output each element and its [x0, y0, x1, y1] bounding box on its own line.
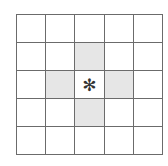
grid-cell [75, 15, 104, 43]
grid-cell [105, 15, 134, 43]
grid-cell-center: ✻ [75, 71, 104, 99]
grid-cell [46, 99, 75, 127]
grid-cell [46, 43, 75, 71]
grid-cell [17, 71, 46, 99]
grid-cell [105, 99, 134, 127]
grid-cell-shaded [75, 99, 104, 127]
grid-cell [134, 15, 163, 43]
grid-cell-shaded [105, 71, 134, 99]
grid-cell [17, 127, 46, 155]
grid-diagram: ✻ [16, 14, 163, 155]
grid-cell [75, 127, 104, 155]
grid-cell-shaded [75, 43, 104, 71]
grid-cell [17, 43, 46, 71]
grid-cell [105, 127, 134, 155]
grid-cell [105, 43, 134, 71]
grid-cell [134, 43, 163, 71]
grid-cell-shaded [46, 71, 75, 99]
grid-cell [46, 15, 75, 43]
grid-cell [134, 71, 163, 99]
grid-cell [134, 127, 163, 155]
grid-cell [134, 99, 163, 127]
asterisk-icon: ✻ [82, 77, 96, 94]
grid-cell [17, 15, 46, 43]
grid-cell [46, 127, 75, 155]
grid-cell [17, 99, 46, 127]
